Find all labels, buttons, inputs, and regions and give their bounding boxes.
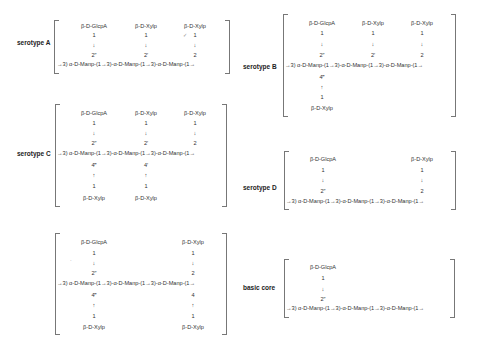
arrow-up-icon: ↑ xyxy=(93,303,96,309)
linkage-number: 1 xyxy=(420,31,423,37)
substituent: β-D-Xylp xyxy=(135,24,157,30)
substituent: β-D-GlcpA xyxy=(81,111,107,117)
substituent: β-D-Xylp xyxy=(83,196,105,202)
linkage-number: 1 xyxy=(320,31,323,37)
substituent: β-D-Xylp xyxy=(135,111,157,117)
linkage-number: 1 xyxy=(420,168,423,174)
panel-label: serotype D xyxy=(243,184,277,191)
arrow-down-icon: ↓ xyxy=(93,261,96,267)
arrow-down-icon: ↓ xyxy=(145,43,148,49)
substituent: β-D-Xylp xyxy=(182,240,204,246)
panel-label: serotype C xyxy=(17,150,51,157)
linkage-number: 1 xyxy=(144,184,147,190)
backbone-chain: →3) α-D-Manp-(1→3)-α-D-Manp-(1→3)-α-D-Ma… xyxy=(286,199,424,205)
arrow-down-icon: ↓ xyxy=(192,261,195,267)
linkage-number: 1 xyxy=(92,184,95,190)
substituent: β-D-Xylp xyxy=(184,111,206,117)
substituent: β-D-Xylp xyxy=(184,24,206,30)
position-number: 2′ xyxy=(371,53,375,59)
right-bracket xyxy=(222,104,227,207)
position-number: 4‴ xyxy=(319,75,324,81)
position-number: 2″ xyxy=(319,53,324,59)
arrow-down-icon: ↓ xyxy=(93,43,96,49)
linkage-number: 1 xyxy=(191,314,194,320)
panel-label: serotype A xyxy=(17,39,50,46)
position-number: 4‴ xyxy=(91,163,96,169)
arrow-down-icon: ↓ xyxy=(145,131,148,137)
linkage-number: 1 xyxy=(371,31,374,37)
substituent: β-D-Xylp xyxy=(135,196,157,202)
substituent: β-D-GlcpA xyxy=(309,21,335,27)
linkage-number: 1 xyxy=(92,314,95,320)
backbone-chain: →3) α-D-Manp-(1→3)-α-D-Manp-(1→3)-α-D-Ma… xyxy=(285,63,423,69)
linkage-number: 1 xyxy=(193,33,196,39)
arrow-up-icon: ↑ xyxy=(321,85,324,91)
position-number: 2″ xyxy=(91,53,96,59)
arrow-down-icon: ↓ xyxy=(321,42,324,48)
substituent: β-D-Xylp xyxy=(83,325,105,331)
substituent: β-D-Xylp xyxy=(362,21,384,27)
arrow-up-icon: ↑ xyxy=(93,173,96,179)
panel-label: serotype B xyxy=(243,63,277,70)
substituent: β-D-GlcpA xyxy=(310,157,336,163)
position-number: 2′ xyxy=(144,53,148,59)
position-number: 4‴ xyxy=(91,293,96,299)
arrow-down-icon: ↓ xyxy=(421,178,424,184)
linkage-number: 1 xyxy=(321,276,324,282)
position-number: 2″ xyxy=(320,189,325,195)
linkage-number: 1 xyxy=(92,251,95,257)
position-number: 2 xyxy=(193,53,196,59)
arrow-down-icon: ↓ xyxy=(372,42,375,48)
linkage-number: 1 xyxy=(144,121,147,127)
substituent: β-D-Xylp xyxy=(311,106,333,112)
position-number: 4 xyxy=(191,293,194,299)
position-number: 2″ xyxy=(320,297,325,303)
linkage-number: 1 xyxy=(193,121,196,127)
linkage-number: 1 xyxy=(320,95,323,101)
backbone-chain: →3) α-D-Manp-(1→3)-α-D-Manp-(1→3)-α-D-Ma… xyxy=(57,281,195,287)
linkage-number: 1 xyxy=(321,168,324,174)
substituent: β-D-GlcpA xyxy=(310,265,336,271)
arrow-down-icon: ↓ xyxy=(93,131,96,137)
stray-dot: · xyxy=(70,257,72,263)
position-number: 2 xyxy=(191,271,194,277)
backbone-chain: →3) α-D-Manp-(1→3)-α-D-Manp-(1→3)-α-D-Ma… xyxy=(286,306,424,312)
right-bracket xyxy=(451,14,456,117)
right-bracket xyxy=(222,233,227,335)
arrow-down-icon: ↓ xyxy=(194,43,197,49)
right-bracket xyxy=(450,259,455,318)
position-number: 4′ xyxy=(144,163,148,169)
arrow-up-icon: ↑ xyxy=(145,173,148,179)
position-number: 2″ xyxy=(91,271,96,277)
substituent: β-D-Xylp xyxy=(182,325,204,331)
panel-label: basic core xyxy=(243,284,275,291)
position-number: 2″ xyxy=(91,141,96,147)
arrow-down-icon: ↓ xyxy=(322,178,325,184)
linkage-number: 1 xyxy=(144,33,147,39)
linkage-number: 1 xyxy=(92,121,95,127)
position-number: 2 xyxy=(420,189,423,195)
arrow-down-icon: ↓ xyxy=(421,42,424,48)
position-number: 2 xyxy=(420,53,423,59)
arrow-down-icon: ↓ xyxy=(194,131,197,137)
linkage-number: 1 xyxy=(92,33,95,39)
substituent: β-D-GlcpA xyxy=(81,24,107,30)
arrow-up-icon: ↑ xyxy=(192,303,195,309)
backbone-chain: →3) α-D-Manp-(1→3)-α-D-Manp-(1→3)-α-D-Ma… xyxy=(57,151,195,157)
position-number: 2 xyxy=(193,141,196,147)
position-number: 2′ xyxy=(144,141,148,147)
right-bracket xyxy=(451,151,456,210)
substituent: β-D-Xylp xyxy=(411,157,433,163)
substituent: β-D-GlcpA xyxy=(81,240,107,246)
linkage-number: 1 xyxy=(191,251,194,257)
substituent: β-D-Xylp xyxy=(411,21,433,27)
right-bracket xyxy=(225,20,230,74)
backbone-chain: →3) α-D-Manp-(1→3)-α-D-Manp-(1→3)-α-D-Ma… xyxy=(57,62,195,68)
arrow-down-icon: ↓ xyxy=(322,287,325,293)
check-mark-icon: ✓ xyxy=(183,32,187,38)
